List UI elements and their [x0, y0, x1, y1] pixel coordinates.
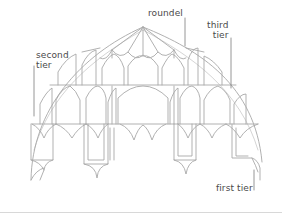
label-second-tier: second tier	[36, 50, 69, 70]
label-first-tier: first tier	[216, 183, 253, 193]
bottom-divider	[0, 212, 282, 213]
label-third-tier: third tier	[207, 20, 229, 40]
label-roundel: roundel	[148, 8, 183, 18]
first-tier-arches	[31, 124, 260, 180]
second-tier-arches	[40, 86, 246, 124]
